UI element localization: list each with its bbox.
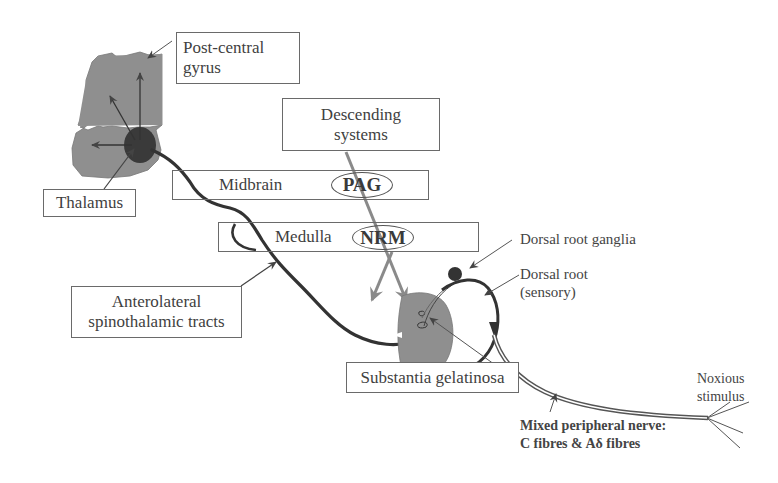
dorsal-root-line1: Dorsal root (520, 265, 588, 283)
descending-systems-label: Descending systems (282, 98, 440, 151)
descending-line1: Descending (321, 105, 401, 125)
noxious-stimulus-label: Noxious stimulus (697, 370, 744, 406)
pag-label: PAG (343, 174, 382, 196)
midbrain-label: Midbrain (219, 175, 282, 195)
dorsal-root-label: Dorsal root (sensory) (520, 265, 588, 301)
descending-line2: systems (334, 125, 388, 145)
post-central-gyrus-label: Post-central gyrus (176, 32, 300, 84)
nrm-oval: NRM (352, 225, 414, 250)
dorsal-root-ganglia-label: Dorsal root ganglia (520, 230, 636, 248)
noxious-line1: Noxious (697, 370, 744, 388)
mixed-nerve-label: Mixed peripheral nerve: C fibres & Aδ fi… (520, 417, 666, 453)
medulla-label: Medulla (275, 227, 332, 247)
nrm-label: NRM (360, 227, 405, 249)
post-central-line1: Post-central (183, 38, 264, 58)
post-central-line2: gyrus (183, 58, 221, 78)
substantia-label: Substantia gelatinosa (360, 368, 504, 388)
noxious-line2: stimulus (697, 388, 744, 406)
pag-oval: PAG (331, 172, 393, 198)
medulla-band: Medulla (218, 222, 479, 252)
thalamus-label-box: Thalamus (43, 189, 136, 217)
substantia-gelatinosa-label-box: Substantia gelatinosa (346, 362, 519, 393)
anterolateral-line1: Anterolateral (112, 292, 202, 312)
anterolateral-line2: spinothalamic tracts (88, 312, 224, 332)
dorsal-root-ganglion (448, 267, 462, 281)
anterolateral-label-box: Anterolateral spinothalamic tracts (71, 286, 242, 338)
mixed-nerve-line2: C fibres & Aδ fibres (520, 435, 666, 453)
thalamus-label: Thalamus (56, 193, 123, 213)
mixed-nerve-line1: Mixed peripheral nerve: (520, 417, 666, 435)
dorsal-root-line2: (sensory) (520, 283, 588, 301)
mixed-peripheral-nerve (494, 335, 708, 418)
